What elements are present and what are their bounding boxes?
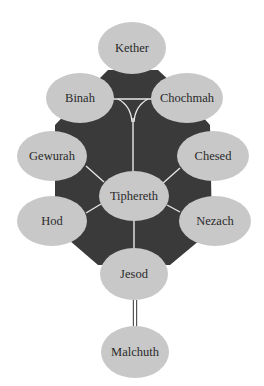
node-hod: Hod [17,196,87,246]
node-label: Tiphereth [110,189,159,203]
node-label: Hod [41,214,63,228]
node-kether: Kether [98,22,166,74]
node-label: Jesod [120,267,149,281]
node-label: Chochmah [160,91,215,105]
node-nezach: Nezach [179,196,251,246]
node-gewurah: Gewurah [17,131,87,181]
node-label: Binah [65,91,96,105]
node-label: Nezach [196,214,234,228]
node-binah: Binah [46,73,114,123]
node-label: Kether [115,41,150,55]
node-tiphereth: Tiphereth [99,171,169,221]
node-label: Malchuth [111,345,160,359]
tree-of-life-diagram: KetherBinahChochmahGewurahChesedTipheret… [0,0,264,386]
node-jesod: Jesod [100,248,168,300]
node-label: Gewurah [29,149,76,163]
node-chochmah: Chochmah [151,73,223,123]
node-malchuth: Malchuth [101,326,169,378]
node-label: Chesed [195,149,233,163]
node-chesed: Chesed [177,131,249,181]
